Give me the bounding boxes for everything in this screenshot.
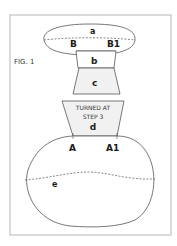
figure-title: FIG. 1	[14, 58, 34, 66]
piece-b-label: b	[91, 56, 98, 66]
piece-d-note-line1: TURNED AT	[75, 104, 111, 111]
piece-d-label: d	[90, 122, 96, 132]
piece-e: A A1 e	[25, 133, 155, 227]
piece-d: TURNED AT STEP 3 d	[62, 101, 124, 136]
piece-a-label: a	[90, 27, 95, 36]
piece-e-label: e	[52, 180, 58, 189]
mark-a1: A1	[106, 143, 119, 153]
piece-d-note-line2: STEP 3	[83, 113, 104, 120]
mark-a: A	[69, 143, 76, 153]
piece-c: c	[73, 68, 120, 94]
piece-e-outline	[27, 136, 154, 227]
mark-b1: B1	[107, 39, 120, 49]
figure-1-diagram: FIG. 1 a B B1 b c TURNED AT STEP 3 d A A…	[0, 0, 177, 246]
piece-b: b	[76, 51, 116, 68]
mark-b: B	[70, 39, 77, 49]
piece-c-label: c	[92, 78, 97, 88]
piece-a: a B B1	[44, 24, 135, 55]
